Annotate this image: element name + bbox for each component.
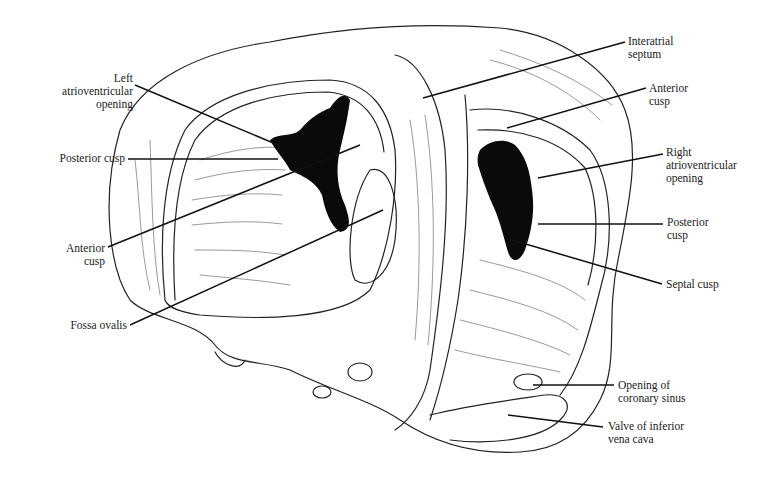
label-interatrial-septum: Interatrial septum	[628, 35, 673, 61]
leader-fossa-ovalis	[130, 210, 383, 325]
leader-anterior-cusp-right	[507, 88, 646, 128]
interatrial-septum-band-edge	[430, 95, 468, 420]
label-line: Anterior	[649, 82, 688, 95]
label-line: cusp	[667, 229, 709, 242]
label-posterior-cusp-right: Posterior cusp	[667, 216, 709, 242]
label-right-av-opening: Right atrioventricular opening	[666, 146, 737, 185]
interatrial-septum-band	[395, 55, 446, 430]
leader-left-av-opening	[135, 85, 278, 145]
leader-ivc-valve	[508, 415, 603, 427]
label-coronary-sinus-opening: Opening of coronary sinus	[618, 379, 685, 405]
ivc-valve-fold	[430, 395, 567, 442]
label-line: vena cava	[608, 433, 684, 446]
fossa-ovalis-outline	[350, 170, 396, 284]
label-line: opening	[20, 98, 133, 111]
label-line: Left	[20, 72, 133, 85]
leader-anterior-cusp-left	[108, 145, 360, 247]
label-line: septum	[628, 48, 673, 61]
label-line: coronary sinus	[618, 392, 685, 405]
label-line: cusp	[40, 255, 105, 268]
label-line: Right	[666, 146, 737, 159]
label-anterior-cusp-right: Anterior cusp	[649, 82, 688, 108]
label-line: Valve of inferior	[608, 420, 684, 433]
label-line: Fossa ovalis	[30, 319, 127, 332]
label-septal-cusp: Septal cusp	[666, 278, 719, 291]
leader-septal-cusp	[512, 240, 662, 284]
label-line: Posterior	[667, 216, 709, 229]
label-line: Interatrial	[628, 35, 673, 48]
left-atrium-rim	[162, 80, 395, 317]
leader-interatrial-septum	[423, 42, 625, 98]
label-line: Anterior	[40, 242, 105, 255]
label-line: opening	[666, 172, 737, 185]
leader-lines	[108, 42, 663, 427]
heart-outer-outline	[109, 26, 632, 453]
vessel-stub-1	[348, 363, 372, 381]
coronary-sinus-ring	[514, 374, 542, 390]
label-fossa-ovalis: Fossa ovalis	[30, 319, 127, 332]
label-line: Posterior cusp	[10, 152, 125, 165]
label-line: Opening of	[618, 379, 685, 392]
label-ivc-valve: Valve of inferior vena cava	[608, 420, 684, 446]
left-av-opening-shape	[270, 96, 350, 232]
label-posterior-cusp-left: Posterior cusp	[10, 152, 125, 165]
label-line: atrioventricular	[20, 85, 133, 98]
left-atrium-inner-rim	[174, 92, 384, 300]
appendage-stub	[215, 352, 245, 366]
right-av-opening-shape	[478, 141, 534, 260]
label-line: cusp	[649, 95, 688, 108]
label-left-av-opening: Left atrioventricular opening	[20, 72, 133, 111]
label-line: atrioventricular	[666, 159, 737, 172]
label-anterior-cusp-left: Anterior cusp	[40, 242, 105, 268]
leader-right-av-opening	[538, 154, 663, 178]
vessel-stub-2	[313, 386, 331, 398]
label-line: Septal cusp	[666, 278, 719, 291]
